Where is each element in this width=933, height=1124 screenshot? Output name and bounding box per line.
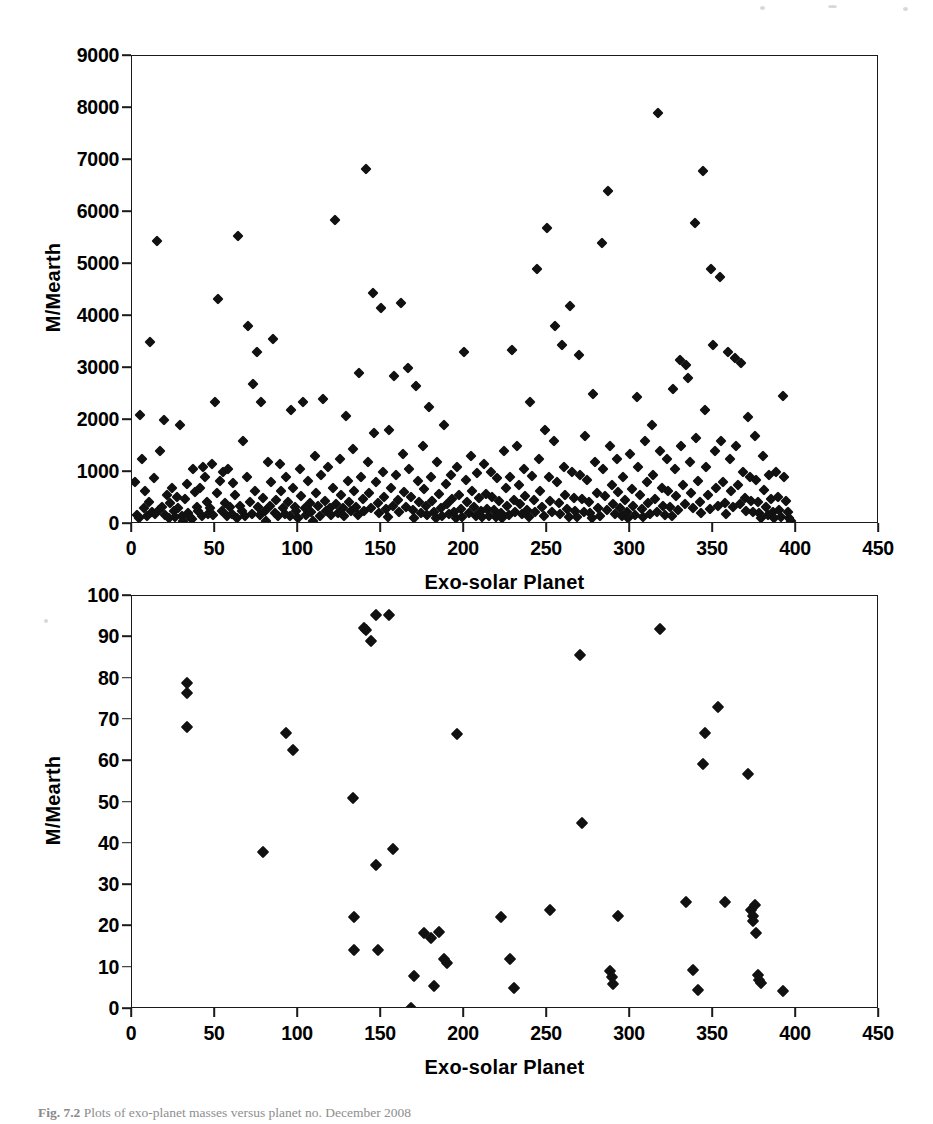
scan-speck	[44, 619, 48, 623]
data-point	[707, 339, 718, 350]
data-point	[544, 904, 557, 917]
data-point	[180, 687, 193, 700]
data-point	[494, 911, 507, 924]
data-point	[714, 271, 725, 282]
y-tick-mark	[122, 470, 131, 472]
data-point	[504, 953, 517, 966]
data-point	[580, 430, 591, 441]
data-point	[140, 485, 151, 496]
data-point	[671, 491, 682, 502]
y-tick-label: 100	[2, 584, 119, 607]
figure-caption-label: Fig. 7.2	[38, 1105, 80, 1120]
x-tick-label: 50	[203, 537, 224, 560]
data-point	[692, 475, 703, 486]
data-point	[329, 214, 340, 225]
data-point	[548, 435, 559, 446]
x-tick-mark	[711, 1008, 713, 1017]
data-point	[206, 459, 217, 470]
data-point	[500, 482, 511, 493]
data-point	[618, 472, 629, 483]
x-tick-label: 450	[862, 1022, 894, 1045]
data-point	[317, 394, 328, 405]
x-tick-mark	[213, 523, 215, 532]
data-point	[540, 425, 551, 436]
data-point	[686, 487, 697, 498]
data-point	[698, 727, 711, 740]
data-point	[377, 466, 388, 477]
data-point	[428, 979, 441, 992]
data-point	[541, 222, 552, 233]
data-point	[634, 490, 645, 501]
chart-top: 0100020003000400050006000700080009000 05…	[0, 30, 933, 575]
data-point	[565, 300, 576, 311]
y-tick-mark	[122, 677, 131, 679]
y-tick-mark	[122, 842, 131, 844]
y-tick-mark	[122, 718, 131, 720]
x-tick-mark	[462, 1008, 464, 1017]
scatter-points-bottom	[132, 596, 877, 1007]
y-tick-mark	[122, 262, 131, 264]
y-tick-mark	[122, 54, 131, 56]
data-point	[603, 186, 614, 197]
figure-caption: Fig. 7.2 Plots of exo-planet masses vers…	[38, 1104, 898, 1124]
data-point	[346, 791, 359, 804]
data-point	[654, 622, 667, 635]
data-point	[460, 474, 471, 485]
y-tick-label: 10	[2, 955, 119, 978]
data-point	[556, 339, 567, 350]
data-point	[506, 344, 517, 355]
x-tick-mark	[296, 523, 298, 532]
scan-speck	[903, 7, 908, 11]
data-point	[370, 477, 381, 488]
data-point	[701, 461, 712, 472]
x-tick-label: 450	[862, 537, 894, 560]
data-point	[691, 433, 702, 444]
data-point	[511, 440, 522, 451]
data-point	[697, 166, 708, 177]
data-point	[498, 446, 509, 457]
data-point	[181, 479, 192, 490]
data-point	[155, 446, 166, 457]
data-point	[370, 858, 383, 871]
x-tick-label: 200	[447, 537, 479, 560]
x-tick-mark	[711, 523, 713, 532]
y-tick-label: 1000	[2, 460, 119, 483]
data-point	[348, 944, 361, 957]
figure-page: 0100020003000400050006000700080009000 05…	[0, 0, 933, 1124]
data-point	[209, 396, 220, 407]
y-tick-label: 2000	[2, 408, 119, 431]
data-point	[262, 456, 273, 467]
data-point	[294, 464, 305, 475]
data-point	[750, 927, 763, 940]
y-tick-label: 9000	[2, 44, 119, 67]
y-tick-mark	[122, 158, 131, 160]
y-axis-title-bottom: M/Mearth	[42, 710, 65, 890]
data-point	[309, 451, 320, 462]
x-tick-label: 150	[364, 537, 396, 560]
data-point	[438, 420, 449, 431]
data-point	[365, 635, 378, 648]
data-point	[423, 401, 434, 412]
x-tick-label: 50	[203, 1022, 224, 1045]
data-point	[689, 218, 700, 229]
data-point	[371, 944, 384, 957]
data-point	[229, 489, 240, 500]
x-tick-mark	[213, 1008, 215, 1017]
x-tick-label: 250	[530, 537, 562, 560]
data-point	[676, 440, 687, 451]
data-point	[214, 476, 225, 487]
plot-area-bottom	[131, 595, 878, 1008]
x-tick-mark	[877, 523, 879, 532]
data-point	[611, 453, 622, 464]
data-point	[575, 817, 588, 830]
y-tick-label: 20	[2, 914, 119, 937]
data-point	[355, 472, 366, 483]
x-tick-mark	[296, 1008, 298, 1017]
data-point	[248, 378, 259, 389]
x-tick-label: 250	[530, 1022, 562, 1045]
data-point	[233, 231, 244, 242]
data-point	[347, 443, 358, 454]
x-tick-label: 300	[613, 537, 645, 560]
data-point	[425, 472, 436, 483]
y-tick-mark	[122, 636, 131, 638]
